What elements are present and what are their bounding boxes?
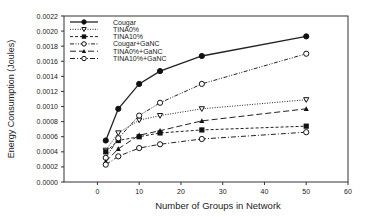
legend-label: TINA10% <box>113 33 143 40</box>
x-tick-label: 10 <box>135 188 143 195</box>
y-tick-label: 0.0012 <box>37 88 59 95</box>
legend-label: TINA10%+GaNC <box>113 55 167 62</box>
y-tick-label: 0.0006 <box>37 133 59 140</box>
legend-item: TINA0%+GaNC <box>70 48 163 55</box>
series-tina0-ganc <box>103 106 309 163</box>
series-tina0- <box>103 98 309 153</box>
x-tick-label: 60 <box>344 188 352 195</box>
x-tick-label: 50 <box>302 188 310 195</box>
y-tick-label: 0.0016 <box>37 58 59 65</box>
y-tick-label: 0.0010 <box>37 103 59 110</box>
y-tick-label: 0.0008 <box>37 118 59 125</box>
series-cougar-ganc <box>103 51 309 160</box>
y-tick-label: 0.0020 <box>37 28 59 35</box>
legend-item: TINA0% <box>70 26 139 33</box>
y-tick-label: 0.0018 <box>37 43 59 50</box>
energy-consumption-chart: 0.00000.00020.00040.00060.00080.00100.00… <box>0 0 369 217</box>
series-tina10-ganc <box>103 130 309 168</box>
y-axis-label: Energy Consumption (Joules) <box>6 40 16 159</box>
y-tick-label: 0.0004 <box>37 148 59 155</box>
x-axis: 0102030405060 <box>95 182 352 195</box>
x-tick-label: 30 <box>219 188 227 195</box>
x-tick-label: 40 <box>261 188 269 195</box>
y-tick-label: 0.0000 <box>37 179 59 186</box>
legend: CougarTINA0%TINA10%Cougar+GaNCTINA0%+GaN… <box>70 19 167 63</box>
legend-label: TINA0% <box>113 26 139 33</box>
y-tick-label: 0.0002 <box>37 163 59 170</box>
legend-item: TINA10% <box>70 33 143 40</box>
y-tick-label: 0.0022 <box>37 13 59 20</box>
x-tick-label: 20 <box>177 188 185 195</box>
y-tick-label: 0.0014 <box>37 73 59 80</box>
legend-label: TINA0%+GaNC <box>113 48 163 55</box>
legend-item: TINA10%+GaNC <box>70 55 167 62</box>
y-axis: 0.00000.00020.00040.00060.00080.00100.00… <box>37 13 64 186</box>
x-tick-label: 0 <box>95 188 99 195</box>
x-axis-label: Number of Groups in Network <box>155 200 281 211</box>
